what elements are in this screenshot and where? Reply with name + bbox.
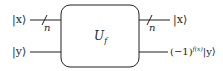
gate-name: U (94, 29, 104, 43)
phase-exponent: f(x) (193, 45, 203, 52)
gate-subscript: f (104, 36, 107, 45)
input-label-x: |x⟩ (12, 14, 26, 25)
phase-prefix: (−1) (170, 46, 193, 57)
circuit-wires (0, 0, 223, 71)
input-label-y: |y⟩ (12, 46, 26, 57)
output-label-x: |x⟩ (173, 14, 187, 25)
register-size-out: n (149, 23, 155, 33)
output-ket-y: |y⟩ (203, 46, 216, 57)
register-size-in: n (44, 23, 50, 33)
gate-label: Uf (94, 30, 107, 45)
output-label-y: (−1)f(x)|y⟩ (170, 46, 216, 57)
